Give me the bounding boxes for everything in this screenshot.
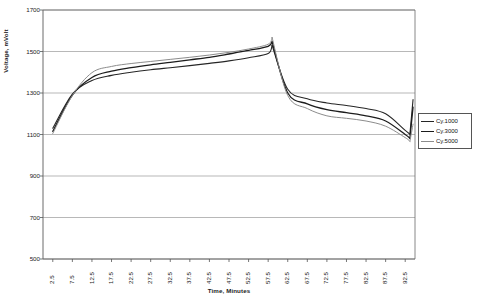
series-line-segment [53,45,272,128]
y-axis-tick-label: 1300 [6,89,40,96]
x-axis-tick-label: 57.5 [264,272,271,284]
x-axis-tick-label: 17.5 [107,272,114,284]
x-axis-tick-labels: 2.57.512.517.522.527.532.537.542.547.552… [0,262,477,286]
x-axis-tick-label: 12.5 [88,272,95,284]
series-line-segment [53,42,272,132]
legend-color-swatch [421,141,434,142]
chart-series-cy-3000 [53,42,413,139]
x-axis-tick-label: 42.5 [205,272,212,284]
legend-item-label: Cy.3000 [436,128,458,134]
x-axis-tick-label: 87.5 [381,272,388,284]
y-axis-tick-labels: 5007009001100130015001700 [4,0,40,300]
x-axis-tick-label: 47.5 [225,272,232,284]
legend-item[interactable]: Cy.3000 [421,126,470,136]
x-axis-tick-label: 2.5 [48,275,55,284]
x-axis-tick-label: 62.5 [283,272,290,284]
y-axis-tick-label: 1700 [6,6,40,13]
legend-item-label: Cy.5000 [436,138,458,144]
chart-series-cy-1000 [53,45,413,134]
legend-color-swatch [421,131,434,132]
x-axis-tick-label: 92.5 [401,272,408,284]
y-axis-tick-label: 700 [6,214,40,221]
x-axis-tick-label: 22.5 [127,272,134,284]
x-axis-tick-label: 27.5 [146,272,153,284]
chart-plot-area [0,0,477,300]
legend-color-swatch [421,121,434,122]
x-axis-title: Time, Minutes [43,287,415,294]
chart-legend: Cy.1000Cy.3000Cy.5000 [418,113,472,149]
chart-container: 5007009001100130015001700 2.57.512.517.5… [0,0,477,300]
series-line-segment [272,45,410,134]
x-axis-tick-label: 82.5 [362,272,369,284]
x-axis-tick-label: 37.5 [185,272,192,284]
y-axis-tick-label: 1500 [6,48,40,55]
legend-item-label: Cy.1000 [436,118,458,124]
y-axis-title: Voltage, mVolt [2,6,9,96]
series-line-segment [272,37,410,141]
x-axis-tick-label: 67.5 [303,272,310,284]
series-line-segment [272,42,410,139]
legend-item[interactable]: Cy.1000 [421,116,470,126]
x-axis-tick-label: 72.5 [322,272,329,284]
x-axis-tick-label: 52.5 [244,272,251,284]
x-axis-tick-label: 77.5 [342,272,349,284]
x-axis-tick-label: 7.5 [68,275,75,284]
y-axis-tick-label: 900 [6,172,40,179]
legend-item[interactable]: Cy.5000 [421,136,470,146]
x-axis-tick-label: 32.5 [166,272,173,284]
y-axis-tick-label: 1100 [6,131,40,138]
